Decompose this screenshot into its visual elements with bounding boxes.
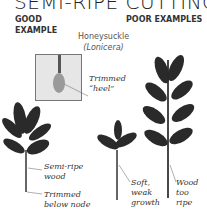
annotation-soft-weak-growth: Soft, weak growth: [131, 178, 160, 208]
annotation-line: weak: [131, 188, 160, 198]
annotation-line: ripe: [176, 198, 198, 208]
annotation-line: wood: [44, 172, 83, 182]
annotation-line: Trimmed: [89, 74, 126, 84]
annotation-line: below node: [44, 200, 90, 210]
annotation-line: Semi-ripe: [44, 162, 83, 172]
annotation-semi-ripe-wood: Semi-ripe wood: [44, 162, 83, 182]
annotation-line: too: [176, 188, 198, 198]
annotation-wood-too-ripe: Wood too ripe: [176, 178, 198, 208]
annotation-line: Soft,: [131, 178, 160, 188]
too-ripe-cutting: [140, 53, 197, 198]
annotation-trimmed-below-node: Trimmed below node: [44, 190, 90, 210]
annotation-line: growth: [131, 198, 160, 208]
annotation-line: Trimmed: [44, 190, 90, 200]
annotation-line: “heel”: [89, 84, 126, 94]
annotation-trimmed-heel: Trimmed “heel”: [89, 74, 126, 94]
annotation-line: Wood: [176, 178, 198, 188]
heel-closeup-stem: [53, 55, 88, 96]
